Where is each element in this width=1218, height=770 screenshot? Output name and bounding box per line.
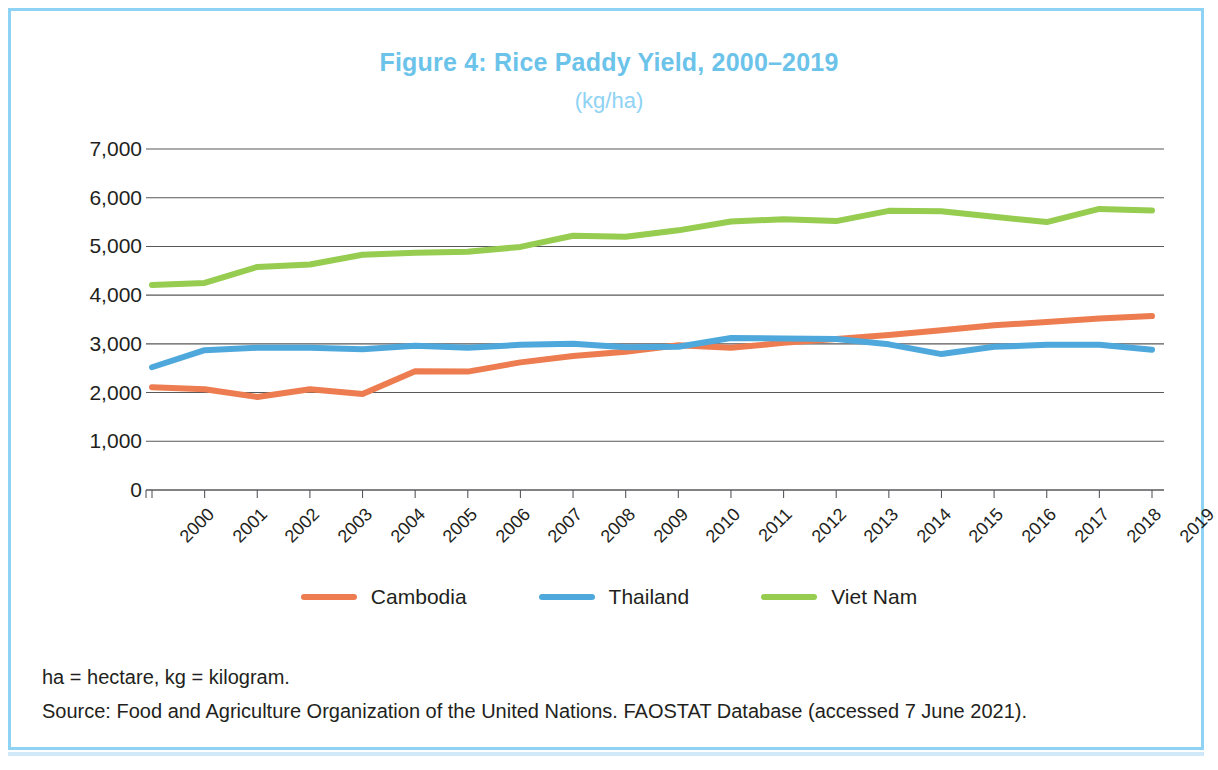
legend-label: Cambodia bbox=[371, 585, 467, 609]
legend-swatch-icon bbox=[539, 594, 595, 600]
y-tick-label-1000: 1,000 bbox=[89, 429, 142, 453]
y-tick-label-6000: 6,000 bbox=[89, 186, 142, 210]
y-axis-tick-labels: 01,0002,0003,0004,0005,0006,0007,000 bbox=[60, 0, 142, 770]
legend-label: Thailand bbox=[609, 585, 690, 609]
note-abbreviations: ha = hectare, kg = kilogram. bbox=[42, 660, 1162, 694]
legend-item-cambodia[interactable]: Cambodia bbox=[301, 585, 467, 609]
legend-label: Viet Nam bbox=[831, 585, 917, 609]
y-tick-label-0: 0 bbox=[130, 478, 142, 502]
legend-swatch-icon bbox=[761, 594, 817, 600]
legend-swatch-icon bbox=[301, 594, 357, 600]
y-tick-label-3000: 3,000 bbox=[89, 332, 142, 356]
y-tick-label-5000: 5,000 bbox=[89, 234, 142, 258]
y-tick-label-4000: 4,000 bbox=[89, 283, 142, 307]
chart-legend: CambodiaThailandViet Nam bbox=[0, 585, 1218, 609]
note-source: Source: Food and Agriculture Organizatio… bbox=[42, 694, 1162, 728]
series-line-cambodia bbox=[152, 316, 1152, 397]
y-tick-label-7000: 7,000 bbox=[89, 137, 142, 161]
series-line-thailand bbox=[152, 338, 1152, 367]
figure-notes: ha = hectare, kg = kilogram. Source: Foo… bbox=[42, 660, 1162, 728]
figure-container: Figure 4: Rice Paddy Yield, 2000–2019 (k… bbox=[0, 0, 1218, 770]
y-tick-label-2000: 2,000 bbox=[89, 381, 142, 405]
plot-area bbox=[0, 0, 1218, 770]
legend-item-viet-nam[interactable]: Viet Nam bbox=[761, 585, 917, 609]
line-chart-svg bbox=[0, 0, 1218, 770]
legend-item-thailand[interactable]: Thailand bbox=[539, 585, 690, 609]
